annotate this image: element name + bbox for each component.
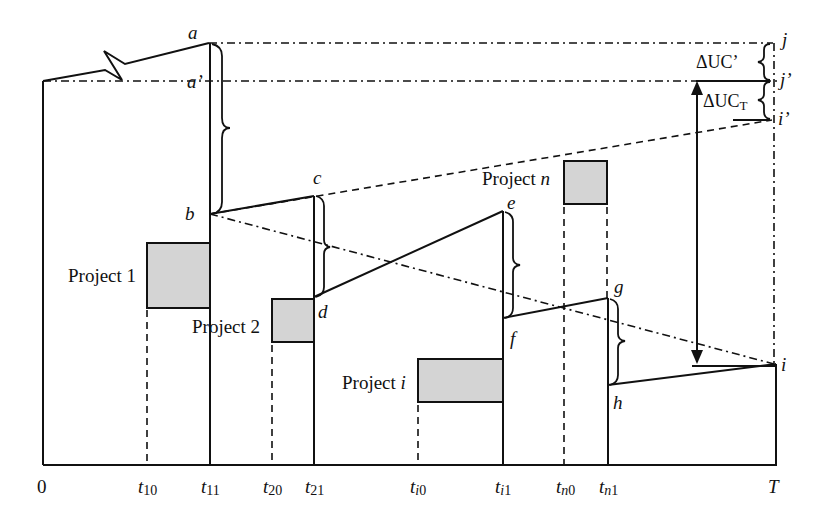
tick-t21: t21 — [305, 476, 324, 498]
label-g: g — [614, 276, 624, 297]
unit-cost-diagram: a a’ b c d e f g h i i’ j j’ ΔUC’ ΔUCT P… — [0, 0, 825, 512]
label-j: j — [779, 29, 787, 50]
delta-uc-prime-label: ΔUC’ — [696, 52, 739, 72]
label-b: b — [185, 203, 195, 224]
brace-g-h — [610, 299, 625, 385]
project-2-box — [272, 299, 314, 342]
dashed-b-to-i-prime — [210, 120, 772, 214]
arrow-up-head — [691, 81, 703, 95]
label-a: a — [188, 22, 198, 43]
label-e: e — [507, 192, 515, 213]
segment-h-i — [608, 364, 776, 385]
brace-e-f — [505, 212, 520, 318]
project-n-box — [564, 161, 607, 204]
tick-t11: t11 — [201, 476, 220, 498]
label-d: d — [318, 301, 328, 322]
tick-tn0: tn0 — [556, 476, 575, 498]
label-h: h — [613, 392, 623, 413]
project-1-label: Project 1 — [68, 265, 136, 286]
tick-ti1: ti1 — [495, 476, 511, 498]
tick-t20: t20 — [263, 476, 282, 498]
label-f: f — [510, 328, 518, 349]
label-c: c — [313, 167, 322, 188]
tick-ti0: ti0 — [410, 476, 426, 498]
project-2-label: Project 2 — [192, 316, 260, 337]
label-i-prime: i’ — [778, 108, 790, 129]
axis-end-label: T — [768, 476, 780, 497]
project-1-box — [147, 243, 210, 308]
project-n-label: Project n — [482, 168, 550, 189]
brace-a-b — [212, 44, 230, 214]
label-a-prime: a’ — [187, 71, 203, 92]
segment-f-g — [503, 298, 608, 318]
brace-c-d — [316, 196, 330, 297]
delta-uc-t-label: ΔUCT — [703, 91, 748, 113]
label-i: i — [781, 354, 786, 375]
label-j-prime: j’ — [777, 69, 792, 90]
axis-origin-label: 0 — [37, 476, 47, 497]
project-i-box — [418, 359, 503, 402]
tick-tn1: tn1 — [599, 476, 618, 498]
arrow-down-head — [691, 350, 703, 364]
brace-delta-uc-prime — [758, 44, 770, 80]
project-i-label: Project i — [342, 372, 406, 393]
brace-delta-uc-t — [758, 82, 770, 119]
initial-cost-line — [43, 43, 209, 81]
tick-t10: t10 — [138, 476, 157, 498]
